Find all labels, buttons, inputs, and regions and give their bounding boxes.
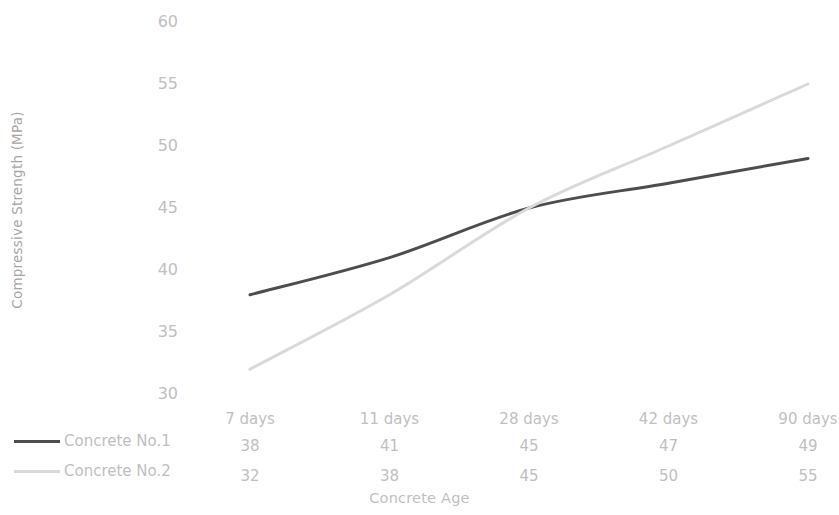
data-table-value: 49 bbox=[798, 439, 817, 454]
series-lines bbox=[0, 0, 839, 400]
x-axis-category-label: 90 days bbox=[778, 412, 837, 427]
x-axis-title: Concrete Age bbox=[0, 490, 839, 506]
x-axis-category-label: 42 days bbox=[639, 412, 698, 427]
series-line-1 bbox=[250, 158, 808, 294]
legend-item-label: Concrete No.2 bbox=[64, 464, 171, 479]
legend-line-swatch-icon bbox=[14, 440, 60, 443]
x-axis-category-label: 11 days bbox=[360, 412, 419, 427]
data-table-value: 45 bbox=[519, 439, 538, 454]
legend-item-label: Concrete No.1 bbox=[64, 434, 171, 449]
legend-line-swatch-icon bbox=[14, 470, 60, 473]
x-axis-category-label: 7 days bbox=[225, 412, 275, 427]
data-table-value: 32 bbox=[240, 469, 259, 484]
legend-item-1[interactable]: Concrete No.1 bbox=[14, 434, 171, 449]
plot-area bbox=[0, 0, 839, 400]
legend-item-2[interactable]: Concrete No.2 bbox=[14, 464, 171, 479]
data-table-value: 38 bbox=[380, 469, 399, 484]
data-table-value: 55 bbox=[798, 469, 817, 484]
series-line-2 bbox=[250, 84, 808, 369]
data-table: 7 days11 days28 days42 days90 daysConcre… bbox=[0, 396, 839, 491]
data-table-value: 47 bbox=[659, 439, 678, 454]
data-table-value: 50 bbox=[659, 469, 678, 484]
data-table-value: 38 bbox=[240, 439, 259, 454]
line-chart: Compressive Strength (MPa) 3035404550556… bbox=[0, 0, 839, 515]
data-table-value: 41 bbox=[380, 439, 399, 454]
x-axis-category-label: 28 days bbox=[499, 412, 558, 427]
data-table-value: 45 bbox=[519, 469, 538, 484]
